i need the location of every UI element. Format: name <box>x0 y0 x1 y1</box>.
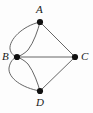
edge-a-c <box>40 22 75 57</box>
vertex-group <box>14 19 78 94</box>
vertex-label-b: B <box>2 51 9 62</box>
vertex-label-c: C <box>81 51 88 62</box>
graph-figure: A B C D <box>0 0 93 113</box>
vertex-label-d: D <box>36 97 44 108</box>
graph-canvas <box>0 0 93 113</box>
vertex-b-dot <box>14 54 20 60</box>
edge-a-b-outer <box>10 22 40 57</box>
edge-b-d-inner <box>17 57 40 91</box>
vertex-d-dot <box>37 88 43 94</box>
edge-d-c <box>40 57 75 91</box>
vertex-label-a: A <box>36 4 43 15</box>
vertex-c-dot <box>72 54 78 60</box>
edge-a-b-inner <box>17 22 40 57</box>
vertex-a-dot <box>37 19 43 25</box>
edge-b-d-outer <box>9 57 40 91</box>
